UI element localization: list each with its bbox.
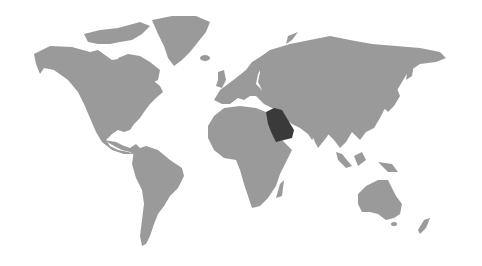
region-madagascar[interactable]: [276, 180, 284, 198]
region-novaya-zemlya[interactable]: [286, 32, 298, 44]
world-map: [0, 0, 482, 266]
region-british-isles[interactable]: [216, 70, 226, 88]
region-tasmania[interactable]: [391, 222, 397, 226]
region-new-zealand[interactable]: [418, 218, 430, 234]
region-australia[interactable]: [358, 180, 402, 220]
region-canadian-arctic[interactable]: [84, 22, 150, 44]
region-iceland[interactable]: [200, 55, 210, 61]
region-borneo[interactable]: [354, 152, 366, 166]
region-sumatra[interactable]: [336, 152, 352, 168]
region-south-america[interactable]: [132, 146, 184, 246]
region-new-guinea[interactable]: [378, 162, 398, 172]
region-india[interactable]: [310, 112, 334, 148]
